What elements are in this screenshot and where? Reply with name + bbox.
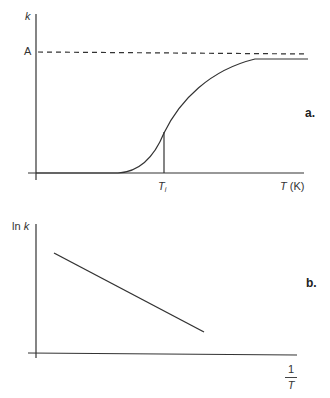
panel-b-x-axis [28,353,297,355]
panel-b-tag: b. [306,277,317,289]
panel-b-y-axis-prefix: ln [12,220,24,232]
panel-a-x-axis-unit: (K) [287,180,305,192]
panel-a-asymptote-line [38,52,308,54]
panel-b-x-axis-numerator: 1 [288,364,294,375]
figure-canvas [0,0,330,398]
panel-a-asymptote-label: A [24,46,31,57]
panel-b-arrhenius-line [54,253,204,332]
panel-b-y-axis-label: ln k [12,221,29,232]
panel-b-x-axis-denominator: T [288,380,295,391]
panel-a-plot [28,14,308,180]
panel-a-y-axis-label: k [25,11,31,22]
panel-a-sigmoid-curve [36,59,308,173]
panel-a-ti-label: Ti [158,181,166,193]
panel-a-tag: a. [305,107,315,119]
panel-b-x-axis-label: 1 T [285,364,297,391]
panel-a-x-axis-var: T [280,180,287,192]
panel-a-ti-sub: i [165,186,167,193]
panel-a-ti-main: T [158,180,165,192]
panel-a-x-axis-label: T (K) [280,181,304,192]
fraction-bar [285,377,297,378]
panel-b-y-axis-var: k [24,220,30,232]
panel-b-plot [28,224,297,358]
